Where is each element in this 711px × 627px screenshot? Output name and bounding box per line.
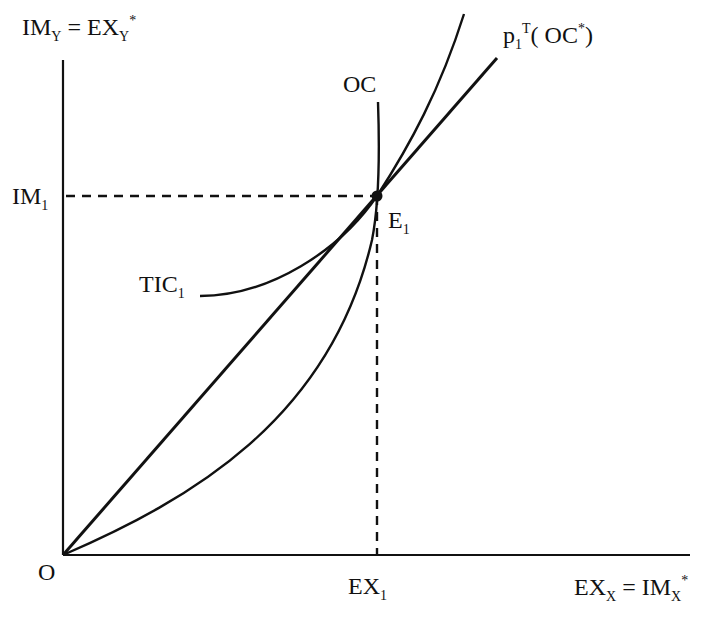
trade-indifference-curve [200,14,464,296]
tic-curve-label: TIC1 [139,272,185,301]
origin-label: O [38,560,55,584]
equilibrium-point [372,191,383,202]
equilibrium-label: E1 [388,208,410,237]
tot-line-label: p1T( OC*) [503,22,593,52]
im1-tick-label: IM1 [12,184,48,213]
terms-of-trade-line [63,58,497,555]
y-axis-label: IMY = EXY* [22,14,136,44]
ex1-tick-label: EX1 [348,574,387,603]
x-axis-label: EXX = IMX* [574,574,688,604]
offer-curve-oc [63,102,379,555]
oc-curve-label: OC [343,72,376,96]
